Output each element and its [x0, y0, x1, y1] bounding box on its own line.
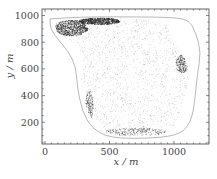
y-tick-label: 1000 [15, 10, 39, 21]
x-tick-label: 1000 [162, 146, 186, 157]
x-tick-label: 0 [42, 146, 48, 157]
y-tick-label: 800 [21, 37, 39, 48]
y-tick-label: 600 [21, 63, 39, 74]
plot-frame [42, 9, 209, 144]
particle-cloud [55, 18, 189, 137]
x-axis-label: x / m [114, 156, 139, 167]
scatter-plot: 05001000 2004006008001000 x / m y / m [0, 0, 217, 179]
y-tick-label: 400 [21, 90, 39, 101]
y-tick-label: 200 [21, 117, 39, 128]
y-tick-labels: 2004006008001000 [15, 10, 39, 128]
y-axis-label: y / m [4, 54, 15, 80]
axis-ticks [42, 9, 209, 144]
